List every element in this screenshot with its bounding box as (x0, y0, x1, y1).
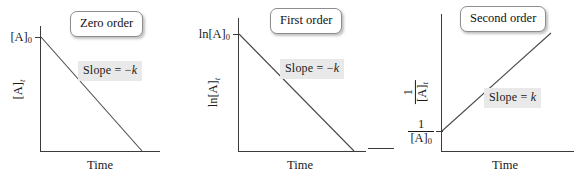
y-axis-numerator: 1 (402, 80, 415, 104)
panel-first-order: ln[A]0 ln[A]t First order Slope = −k Tim… (190, 0, 380, 180)
second-order-trend-line (441, 14, 574, 152)
first-order-trend-line (238, 18, 366, 152)
y-axis-label: [A]t (11, 75, 26, 105)
y-axis-label: 1 [A]t (402, 72, 430, 112)
panel-second-order: 1 [A]0 1 [A]t Second order Slope = k Tim… (380, 0, 574, 180)
badge-zero-order: Zero order (70, 11, 143, 37)
badge-first-order: First order (270, 8, 342, 34)
x-axis-label-text: Time (492, 158, 518, 172)
y-intercept-numerator: 1 (408, 118, 434, 131)
slope-annotation-prefix: Slope = − (83, 63, 132, 77)
x-axis-label: Time (270, 158, 330, 173)
y-intercept-label-text: [A]0 (10, 30, 32, 44)
slope-annotation-prefix: Slope = (489, 90, 531, 104)
slope-symbol-k: k (132, 63, 138, 77)
axis-continuation-rule (368, 148, 394, 149)
y-axis-fraction: 1 [A]t (402, 80, 430, 104)
badge-first-order-label: First order (280, 13, 332, 27)
y-axis-denominator: [A]t (415, 80, 430, 104)
y-intercept-label: 1 [A]0 (400, 118, 434, 146)
y-axis-label: ln[A]t (206, 75, 221, 111)
integrated-rate-law-figure: [A]0 [A]t Zero order Slope = −k Time ln[… (0, 0, 574, 180)
x-axis-label-text: Time (87, 158, 113, 172)
x-axis-label: Time (70, 158, 130, 173)
slope-symbol-k: k (334, 61, 340, 75)
slope-annotation-second-order: Slope = k (484, 88, 541, 108)
badge-second-order: Second order (460, 6, 546, 32)
y-intercept-denominator: [A]0 (408, 131, 434, 146)
badge-zero-order-label: Zero order (80, 16, 133, 30)
panel-zero-order: [A]0 [A]t Zero order Slope = −k Time (0, 0, 190, 180)
y-axis-label-text: [A]t (11, 80, 25, 100)
x-axis-label: Time (475, 158, 535, 173)
y-intercept-fraction: 1 [A]0 (408, 118, 434, 146)
slope-annotation-prefix: Slope = − (285, 61, 334, 75)
slope-annotation-zero-order: Slope = −k (78, 61, 142, 81)
badge-second-order-label: Second order (470, 11, 536, 25)
y-intercept-label: [A]0 (0, 30, 32, 45)
y-axis-label-text: ln[A]t (206, 78, 220, 107)
x-axis-label-text: Time (287, 158, 313, 172)
y-intercept-label: ln[A]0 (190, 27, 230, 42)
slope-annotation-first-order: Slope = −k (280, 59, 344, 79)
zero-order-trend-line (40, 26, 160, 152)
slope-symbol-k: k (531, 90, 537, 104)
y-intercept-label-text: ln[A]0 (199, 27, 230, 41)
